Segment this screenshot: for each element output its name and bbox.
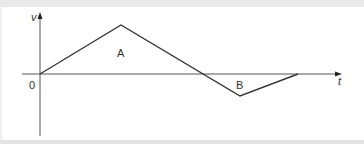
t-axis-label: t (338, 75, 342, 87)
region-a-label: A (117, 47, 125, 59)
v-axis-label: v (31, 11, 38, 23)
v-axis-arrow-icon (38, 12, 43, 19)
region-b-label: B (236, 79, 243, 91)
velocity-time-diagram: v t 0 A B (0, 0, 364, 144)
velocity-graph-line (40, 25, 298, 96)
origin-label: 0 (29, 79, 35, 91)
